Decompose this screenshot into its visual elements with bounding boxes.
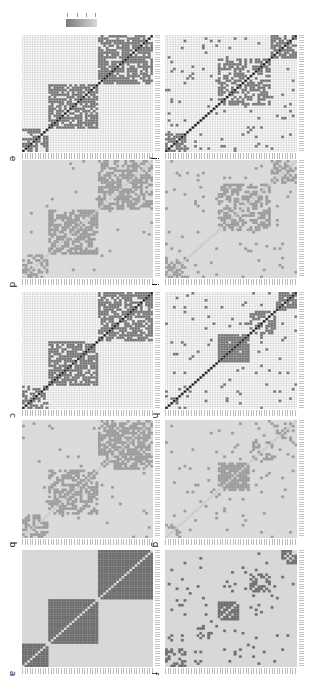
colorbar-tick — [86, 13, 87, 17]
colorbar-tick — [67, 13, 68, 17]
x-tick-labels — [22, 668, 153, 674]
x-tick-labels — [165, 539, 297, 545]
x-tick-labels — [22, 539, 153, 545]
matrix-heatmap — [22, 292, 153, 409]
matrix-heatmap — [22, 35, 153, 152]
matrix-panel-d — [22, 160, 153, 278]
matrix-heatmap — [22, 420, 153, 538]
y-tick-labels — [299, 550, 304, 667]
matrix-panel-i — [165, 160, 297, 278]
x-tick-labels — [22, 153, 153, 159]
y-tick-labels — [155, 550, 160, 667]
x-tick-labels — [22, 279, 153, 285]
panel-label-a: a — [8, 671, 17, 677]
panel-label-g: g — [151, 542, 160, 548]
y-tick-labels — [299, 292, 304, 409]
x-tick-labels — [165, 279, 297, 285]
matrix-panel-h — [165, 292, 297, 409]
y-tick-labels — [155, 420, 160, 538]
matrix-panel-e — [22, 35, 153, 152]
panel-label-h: h — [151, 413, 160, 419]
colorbar-tick — [95, 13, 96, 17]
y-tick-labels — [299, 160, 304, 278]
colorbar-ticks — [66, 13, 97, 18]
matrix-heatmap — [22, 160, 153, 278]
x-tick-labels — [22, 410, 153, 416]
panel-label-b: b — [8, 542, 17, 548]
matrix-heatmap — [165, 550, 297, 667]
x-tick-labels — [165, 668, 297, 674]
panel-label-f: f — [150, 672, 159, 675]
y-tick-labels — [155, 160, 160, 278]
colorbar — [66, 19, 97, 27]
y-tick-labels — [299, 35, 304, 152]
y-tick-labels — [155, 292, 160, 409]
panel-label-j: j — [150, 157, 159, 160]
x-tick-labels — [165, 153, 297, 159]
matrix-heatmap — [165, 292, 297, 409]
matrix-heatmap — [22, 550, 153, 667]
matrix-heatmap — [165, 35, 297, 152]
panel-label-d: d — [8, 282, 17, 288]
x-tick-labels — [165, 410, 297, 416]
matrix-panel-a — [22, 550, 153, 667]
matrix-panel-j — [165, 35, 297, 152]
matrix-panel-f — [165, 550, 297, 667]
colorbar-tick — [77, 13, 78, 17]
y-tick-labels — [155, 35, 160, 152]
matrix-heatmap — [165, 160, 297, 278]
y-tick-labels — [299, 420, 304, 538]
panel-label-i: i — [150, 283, 159, 286]
matrix-panel-c — [22, 292, 153, 409]
matrix-heatmap — [165, 420, 297, 538]
panel-label-e: e — [8, 156, 17, 162]
matrix-panel-b — [22, 420, 153, 538]
matrix-panel-g — [165, 420, 297, 538]
panel-label-c: c — [8, 413, 17, 418]
